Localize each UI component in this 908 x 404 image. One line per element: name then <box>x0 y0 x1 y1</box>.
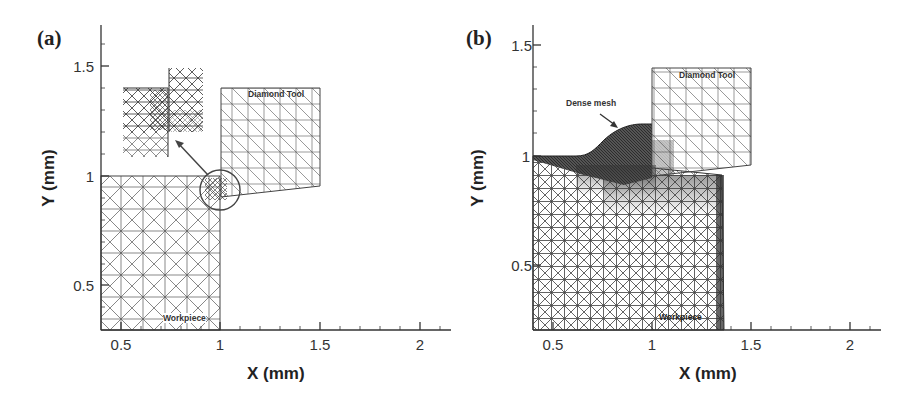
x-tick-label: 1 <box>648 336 656 353</box>
x-tick-label: 2 <box>416 336 424 353</box>
diamond-tool-label: Diamond Tool <box>679 70 735 80</box>
x-tick-label: 1.5 <box>310 336 331 353</box>
panel-b: (b) 0.5 1 1.5 2 1.5 1 0.5 X (mm) Y (mm) … <box>454 0 908 404</box>
workpiece-label: Workpiece <box>659 312 702 322</box>
x-tick-label: 1 <box>216 336 224 353</box>
diamond-tool-mesh <box>221 88 320 197</box>
y-tick-label: 1 <box>86 168 94 185</box>
x-tick-label: 0.5 <box>111 336 132 353</box>
y-axis-title: Y (mm) <box>468 149 488 206</box>
dense-mesh-arrow <box>600 114 618 128</box>
panel-b-plot <box>454 0 908 404</box>
callout-arrow <box>175 140 208 175</box>
y-tick-label: 0.5 <box>511 257 532 274</box>
panel-a: (a) 0.5 1 1.5 2 1.5 1 0.5 X (mm) Y (mm) … <box>0 0 460 404</box>
dense-mesh-label: Dense mesh <box>566 98 616 108</box>
zoom-inset <box>123 68 203 157</box>
workpiece-label: Workpiece <box>163 313 206 323</box>
x-tick-label: 2 <box>846 336 854 353</box>
y-tick-label: 0.5 <box>73 277 94 294</box>
panel-label: (a) <box>37 26 62 51</box>
panel-label: (b) <box>466 26 492 51</box>
x-tick-label: 0.5 <box>543 336 564 353</box>
y-tick-label: 1.5 <box>511 37 532 54</box>
diamond-tool-mesh <box>652 68 751 176</box>
x-axis-title: X (mm) <box>247 364 305 384</box>
y-axis-title: Y (mm) <box>39 149 59 206</box>
panel-a-plot <box>0 0 460 404</box>
fine-mesh-region <box>205 178 227 200</box>
diamond-tool-label: Diamond Tool <box>248 89 304 99</box>
y-tick-label: 1.5 <box>73 58 94 75</box>
x-tick-label: 1.5 <box>741 336 762 353</box>
y-tick-label: 1 <box>522 148 530 165</box>
x-axis-title: X (mm) <box>679 364 737 384</box>
